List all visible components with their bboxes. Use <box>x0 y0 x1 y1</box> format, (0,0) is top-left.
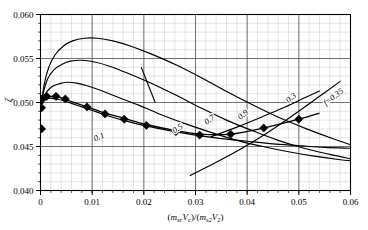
ytick-label: 0.050 <box>13 98 34 108</box>
chart-root: 00.010.020.030.040.050.060.0400.0450.050… <box>0 0 368 230</box>
ytick-label: 0.040 <box>13 186 34 196</box>
ytick-label: 0.055 <box>13 54 34 64</box>
xtick-label: 0.06 <box>343 197 359 207</box>
xtick-label: 0.02 <box>136 197 152 207</box>
xtick-label: 0.04 <box>239 197 255 207</box>
xtick-label: 0.03 <box>188 197 204 207</box>
xtick-label: 0 <box>38 197 43 207</box>
chart-svg: 00.010.020.030.040.050.060.0400.0450.050… <box>0 0 368 230</box>
ytick-label: 0.060 <box>13 10 34 20</box>
ytick-label: 0.045 <box>13 142 34 152</box>
xtick-label: 0.01 <box>84 197 100 207</box>
x-axis-label: (mscVc)/(ms2V2) <box>168 212 224 223</box>
xtick-label: 0.05 <box>291 197 307 207</box>
